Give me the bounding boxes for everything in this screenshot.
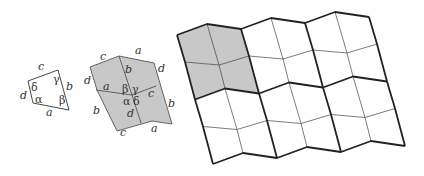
side-label-d-left: d (84, 74, 91, 87)
block-boundary (213, 141, 405, 164)
single-quad-panel: c b d a δ γ α β (20, 60, 73, 119)
diagram-canvas: c b d a δ γ α β c a b d d a c b b d c a … (0, 0, 424, 176)
side-label-c-bottom: c (120, 126, 126, 139)
side-label-a-bottom: a (151, 122, 158, 135)
side-label-c-right: c (148, 87, 154, 100)
tiling-panel (177, 12, 405, 164)
angle-label-alpha: α (35, 93, 43, 106)
tile-inner-line (225, 89, 243, 154)
angle-label-beta: β (59, 94, 65, 107)
tile-inner-line (335, 12, 353, 77)
side-label-b-top: b (125, 63, 132, 76)
side-label-c: c (38, 60, 44, 73)
block-boundary (305, 23, 341, 152)
side-label-d-right: d (158, 62, 165, 75)
four-quad-panel: c a b d d a c b b d c a β γ α δ (84, 44, 175, 139)
angle-label-gamma: γ (53, 73, 60, 86)
side-label-d-center: d (127, 107, 134, 120)
side-label-a-left: a (103, 80, 110, 93)
tile-inner-line (353, 77, 371, 142)
block-boundary (369, 17, 405, 146)
tile-inner-line (289, 83, 307, 148)
tile-inner-line (271, 18, 289, 83)
side-label-b-right: b (168, 97, 175, 110)
side-label-c-top: c (100, 50, 106, 63)
side-label-a-top: a (135, 44, 142, 57)
angle-label-alpha: α (123, 95, 131, 108)
block-boundary (241, 29, 277, 158)
side-label-a: a (46, 106, 53, 119)
side-label-b-left: b (93, 104, 100, 117)
side-label-b: b (66, 80, 73, 93)
angle-label-delta: δ (133, 95, 140, 108)
side-label-d: d (20, 89, 27, 102)
